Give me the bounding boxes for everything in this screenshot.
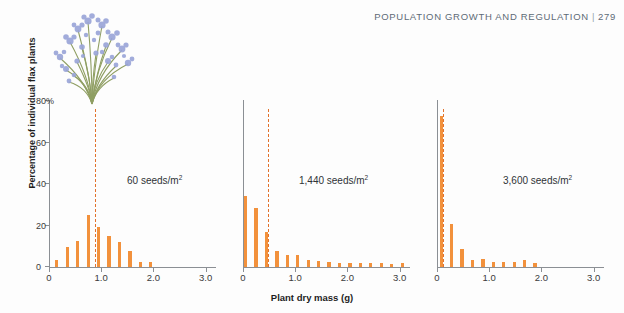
histogram-bar — [254, 208, 257, 267]
panel-density-label-exponent: 2 — [365, 174, 369, 181]
y-axis-line — [49, 100, 50, 268]
histogram-bar — [338, 263, 341, 267]
y-axis-title: Percentage of individual flax plants — [27, 23, 37, 203]
histogram-bar — [460, 249, 463, 267]
panel-density-label-exponent: 2 — [569, 174, 573, 181]
x-axis-tick-label: 2.0 — [147, 272, 160, 283]
x-axis-tick-label: 0 — [46, 272, 51, 283]
y-axis-tick-label: 0 — [36, 262, 39, 272]
histogram-bar — [502, 262, 505, 267]
histogram-bar — [149, 262, 152, 267]
x-axis-tick-label: 0 — [434, 272, 439, 283]
x-axis-tick-label: 3.0 — [199, 272, 212, 283]
x-axis-tick-label: 1.0 — [95, 272, 108, 283]
histogram-bar — [450, 224, 453, 267]
histogram-bar — [317, 261, 320, 267]
histogram-bar — [296, 255, 299, 267]
histogram-bar — [390, 264, 393, 267]
y-axis-tick-label: 80% — [36, 96, 39, 106]
histogram-bar — [492, 262, 495, 267]
histogram-panel-2: 01.02.03.01,440 seeds/m2 — [243, 100, 410, 272]
panel-density-label-exponent: 2 — [179, 174, 183, 181]
histogram-bar — [87, 215, 90, 267]
histogram-bar — [118, 242, 121, 267]
histogram-bar — [369, 263, 372, 267]
running-head-title: POPULATION GROWTH AND REGULATION — [374, 11, 589, 22]
x-axis-tick-label: 3.0 — [587, 272, 600, 283]
y-axis-tick-label: 20 — [36, 221, 39, 231]
x-axis-tick-label: 1.0 — [289, 272, 302, 283]
histogram-bar — [327, 262, 330, 267]
panel-density-label-text: 3,600 seeds/m — [503, 175, 569, 186]
histogram-bar — [471, 260, 474, 267]
histogram-bar — [348, 263, 351, 267]
histogram-bar — [533, 263, 536, 267]
histogram-bar — [128, 251, 131, 267]
running-head-separator: | — [589, 11, 598, 22]
histogram-bar — [139, 262, 142, 267]
histogram-bar — [380, 263, 383, 267]
x-axis-title: Plant dry mass (g) — [0, 292, 624, 303]
y-axis-tick — [45, 266, 49, 267]
histogram-bar — [244, 196, 247, 267]
histogram-panel-1: 020406080%01.02.03.060 seeds/m2 — [49, 100, 216, 272]
histogram-bar — [307, 260, 310, 267]
histogram-bar — [275, 251, 278, 267]
histogram-bar — [76, 241, 79, 267]
histogram-bar — [401, 263, 404, 267]
mean-mass-dashed-line — [268, 109, 270, 267]
x-axis-tick-label: 1.0 — [483, 272, 496, 283]
histogram-bar — [513, 262, 516, 267]
mean-mass-dashed-line — [95, 109, 97, 267]
page-number: 279 — [598, 11, 616, 22]
histogram-bar — [107, 236, 110, 267]
panel-density-label: 1,440 seeds/m2 — [299, 174, 368, 186]
histogram-panel-3: 01.02.03.03,600 seeds/m2 — [437, 100, 604, 272]
histogram-bar — [286, 255, 289, 267]
histogram-bar — [359, 263, 362, 267]
y-axis-tick-label: 60 — [36, 138, 39, 148]
x-axis-tick-label: 2.0 — [535, 272, 548, 283]
y-axis-tick-label: 40 — [36, 179, 39, 189]
running-head: POPULATION GROWTH AND REGULATION|279 — [374, 11, 616, 22]
x-axis-tick-label: 2.0 — [341, 272, 354, 283]
figure-page: POPULATION GROWTH AND REGULATION|279 — [0, 0, 624, 313]
histogram-bar — [97, 227, 100, 267]
x-axis-tick-label: 0 — [240, 272, 245, 283]
histogram-bar — [66, 247, 69, 267]
panel-density-label: 3,600 seeds/m2 — [503, 174, 572, 186]
mean-mass-dashed-line — [443, 109, 445, 267]
histogram-bar — [481, 259, 484, 267]
flax-plant-illustration — [36, 0, 148, 106]
panel-density-label-text: 60 seeds/m — [127, 175, 179, 186]
y-axis-line — [437, 100, 438, 268]
histogram-bar — [523, 260, 526, 267]
panel-density-label-text: 1,440 seeds/m — [299, 175, 365, 186]
panel-density-label: 60 seeds/m2 — [127, 174, 182, 186]
x-axis-line — [49, 267, 216, 268]
histogram-bar — [55, 260, 58, 267]
x-axis-tick-label: 3.0 — [393, 272, 406, 283]
